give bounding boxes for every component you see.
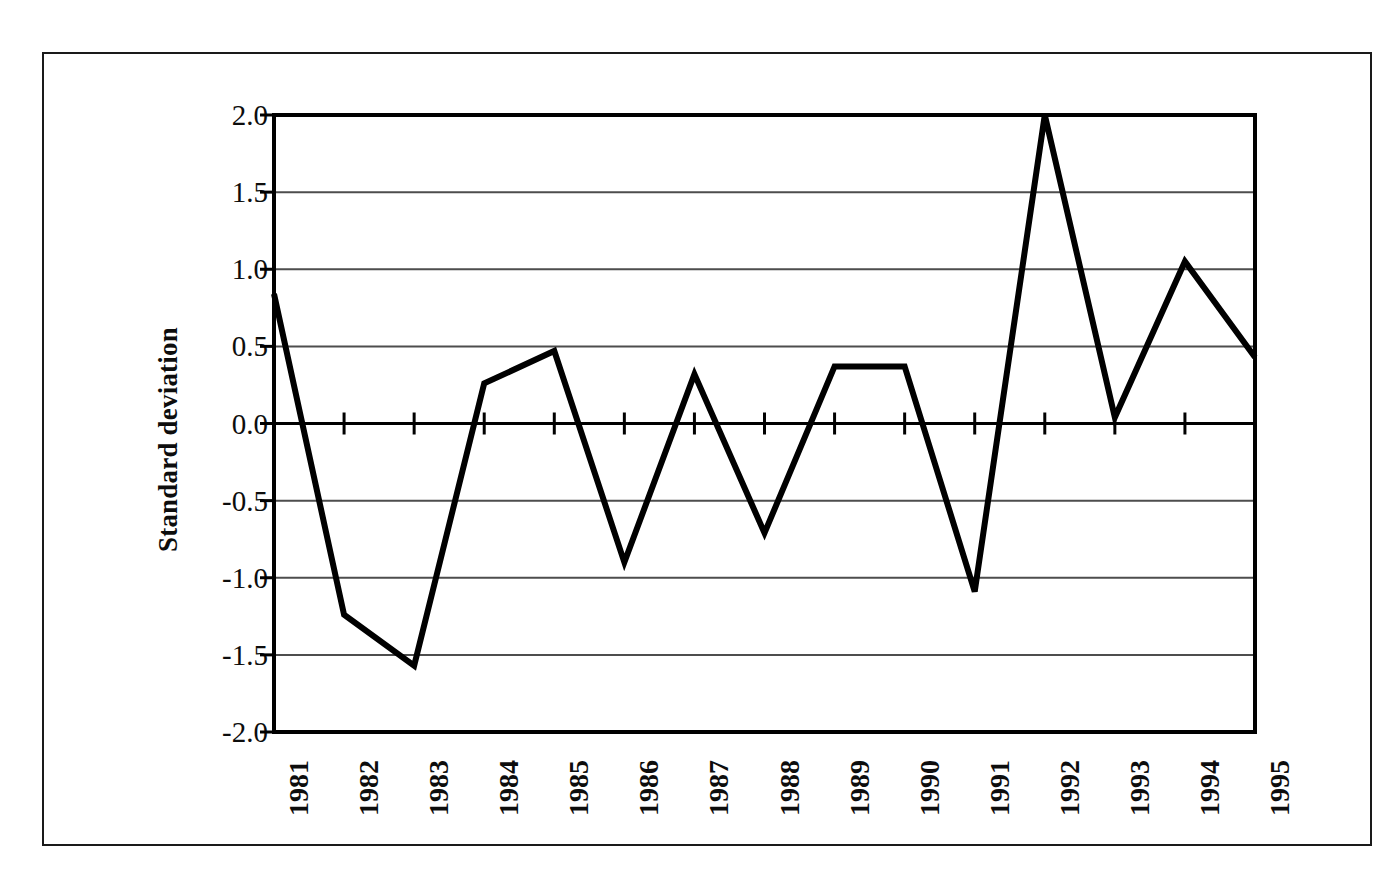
x-axis-tick-label: 1994	[1196, 760, 1224, 816]
x-axis-tick-label: 1992	[1056, 760, 1084, 816]
x-axis-tick-label: 1985	[565, 760, 593, 816]
x-axis-tick-label: 1993	[1126, 760, 1154, 816]
x-axis-tick-label: 1981	[285, 760, 313, 816]
gridlines	[260, 115, 1255, 732]
plot-area	[0, 0, 1399, 875]
x-axis-tick-label: 1986	[635, 760, 663, 816]
data-series-line	[274, 115, 1255, 666]
x-axis-tick-label: 1983	[425, 760, 453, 816]
x-axis-tick-label: 1982	[355, 760, 383, 816]
x-axis-tick-label: 1990	[916, 760, 944, 816]
x-axis-tick-label: 1989	[846, 760, 874, 816]
chart-figure: Standard deviation 2.01.51.00.50.0-0.5-1…	[0, 0, 1399, 875]
x-axis-tick-label: 1995	[1266, 760, 1294, 816]
x-axis-tick-label: 1987	[705, 760, 733, 816]
x-axis-tick-label: 1988	[776, 760, 804, 816]
x-axis-tick-label: 1984	[495, 760, 523, 816]
x-axis-tick-label: 1991	[986, 760, 1014, 816]
